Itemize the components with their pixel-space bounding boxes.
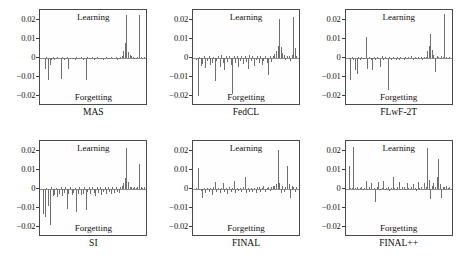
- plot-area: LearningForgetting: [345, 140, 453, 236]
- subplot-grid: 0.020.010−0.01−0.02LearningForgettingMAS…: [0, 0, 458, 262]
- panel-title: FLwF-2T: [345, 107, 453, 117]
- stem-line: [252, 189, 253, 192]
- stem-line: [90, 189, 91, 194]
- stem-line: [350, 58, 351, 80]
- stem-line: [86, 58, 87, 80]
- panel-title: FINAL++: [345, 238, 453, 248]
- y-tick-label: −0.01: [169, 71, 188, 81]
- stem-line: [235, 189, 236, 193]
- stem-line: [234, 181, 235, 189]
- stem-line: [391, 58, 392, 60]
- stem-line: [215, 182, 216, 189]
- y-tick-label: 0: [184, 52, 188, 62]
- stem-line: [100, 58, 101, 59]
- stem-line: [202, 58, 203, 64]
- y-axis: 0.020.010−0.01−0.02: [158, 9, 192, 105]
- y-tick-label: 0.01: [21, 33, 35, 43]
- y-tick-label: −0.02: [169, 90, 188, 100]
- y-tick-label: 0.01: [21, 164, 35, 174]
- y-tick-label: 0.02: [174, 14, 188, 24]
- learning-label: Learning: [193, 12, 299, 22]
- stem-line: [68, 189, 69, 194]
- plot-area: LearningForgetting: [192, 9, 300, 105]
- stem-line: [220, 58, 221, 67]
- stem-line: [295, 189, 296, 192]
- stem-line: [224, 58, 225, 70]
- y-tick-label: 0.02: [21, 145, 35, 155]
- stem-line: [59, 189, 60, 194]
- stem-line: [396, 58, 397, 60]
- y-tick-label: −0.01: [17, 202, 36, 212]
- stem-line: [296, 187, 297, 189]
- stem-line: [285, 58, 286, 60]
- learning-label: Learning: [346, 143, 452, 153]
- stem-line: [51, 58, 52, 60]
- stem-line: [209, 189, 210, 192]
- y-tick-label: 0.01: [174, 33, 188, 43]
- y-tick-label: 0: [31, 183, 35, 193]
- stem-line: [202, 189, 203, 198]
- y-tick-label: 0.01: [174, 164, 188, 174]
- panel-title: SI: [39, 238, 147, 248]
- plot-area: LearningForgetting: [345, 9, 453, 105]
- stem-line: [444, 14, 445, 58]
- stem-line: [284, 189, 285, 192]
- stem-line: [245, 177, 246, 189]
- stem-line: [249, 189, 250, 192]
- stem-line: [290, 58, 291, 61]
- stem-line: [263, 58, 264, 61]
- stem-line: [105, 58, 106, 59]
- y-tick-label: −0.02: [169, 221, 188, 231]
- stem-line: [56, 58, 57, 59]
- stem-line: [353, 147, 354, 189]
- y-tick-label: −0.02: [17, 90, 36, 100]
- y-tick-label: 0.02: [327, 145, 341, 155]
- stem-line: [215, 58, 216, 81]
- panel-finalplusplus: 0.020.010−0.01−0.02LearningForgettingFIN…: [305, 131, 458, 262]
- stem-line: [380, 58, 381, 67]
- stem-line: [90, 58, 91, 59]
- stem-line: [61, 58, 62, 79]
- stem-line: [106, 189, 107, 194]
- stem-line: [430, 189, 431, 199]
- stem-line: [109, 58, 110, 59]
- panel-mas: 0.020.010−0.01−0.02LearningForgettingMAS: [0, 0, 153, 131]
- panel-flwf-2t: 0.020.010−0.01−0.02LearningForgettingFLw…: [305, 0, 458, 131]
- forgetting-label: Forgetting: [193, 223, 299, 233]
- y-axis: 0.020.010−0.01−0.02: [5, 9, 39, 105]
- stem-line: [399, 58, 400, 60]
- stem-line: [220, 189, 221, 193]
- stem-line: [449, 187, 450, 189]
- stem-line: [68, 58, 69, 69]
- panel-fedcl: 0.020.010−0.01−0.02LearningForgettingFed…: [153, 0, 306, 131]
- stem-line: [45, 189, 46, 217]
- stem-line: [440, 58, 441, 59]
- panel-title: FINAL: [192, 238, 300, 248]
- stem-line: [64, 189, 65, 193]
- stem-line: [416, 189, 417, 191]
- stem-line: [238, 189, 239, 191]
- learning-label: Learning: [40, 143, 146, 153]
- stem-line: [232, 58, 233, 94]
- stem-line: [235, 58, 236, 63]
- y-tick-label: 0: [184, 183, 188, 193]
- y-tick-label: −0.01: [322, 202, 341, 212]
- forgetting-label: Forgetting: [40, 92, 146, 102]
- stem-line: [407, 58, 408, 59]
- stem-line: [413, 58, 414, 60]
- stem-line: [271, 58, 272, 62]
- stem-line: [396, 189, 397, 190]
- stem-line: [349, 166, 350, 189]
- y-tick-label: 0: [337, 52, 341, 62]
- stem-line: [367, 189, 368, 190]
- panel-title: FedCL: [192, 107, 300, 117]
- stem-line: [231, 189, 232, 192]
- y-tick-label: 0.02: [174, 145, 188, 155]
- stem-line: [400, 189, 401, 190]
- stem-line: [45, 58, 46, 69]
- stem-line: [448, 58, 449, 59]
- stem-line: [270, 189, 271, 191]
- stem-line: [198, 168, 199, 189]
- stem-line: [388, 58, 389, 90]
- stem-line: [281, 189, 282, 193]
